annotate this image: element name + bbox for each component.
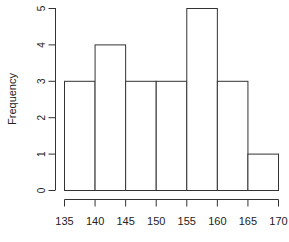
histogram-bar bbox=[248, 154, 279, 190]
y-tick-label: 1 bbox=[36, 151, 47, 157]
histogram-bar bbox=[187, 9, 218, 191]
y-tick-label: 4 bbox=[36, 42, 47, 48]
histogram-bar bbox=[126, 81, 157, 190]
y-tick-label: 0 bbox=[36, 187, 47, 193]
y-axis: 012345 bbox=[36, 5, 56, 193]
x-tick-label: 170 bbox=[269, 215, 287, 227]
histogram-chart: 012345 135140145150155160165170 Frequenc… bbox=[0, 0, 289, 242]
histogram-bars bbox=[65, 9, 279, 191]
x-tick-label: 150 bbox=[147, 215, 165, 227]
x-tick-label: 140 bbox=[86, 215, 104, 227]
y-tick-label: 2 bbox=[36, 114, 47, 120]
histogram-bar bbox=[156, 81, 187, 190]
histogram-bar bbox=[217, 81, 248, 190]
x-tick-label: 145 bbox=[116, 215, 134, 227]
histogram-bar bbox=[95, 45, 126, 191]
x-tick-label: 165 bbox=[239, 215, 257, 227]
x-axis: 135140145150155160165170 bbox=[55, 200, 287, 228]
x-tick-label: 155 bbox=[178, 215, 196, 227]
x-tick-label: 135 bbox=[55, 215, 73, 227]
y-axis-label: Frequency bbox=[6, 73, 18, 125]
x-tick-label: 160 bbox=[208, 215, 226, 227]
y-tick-label: 3 bbox=[36, 78, 47, 84]
histogram-bar bbox=[65, 81, 96, 190]
y-tick-label: 5 bbox=[36, 5, 47, 11]
